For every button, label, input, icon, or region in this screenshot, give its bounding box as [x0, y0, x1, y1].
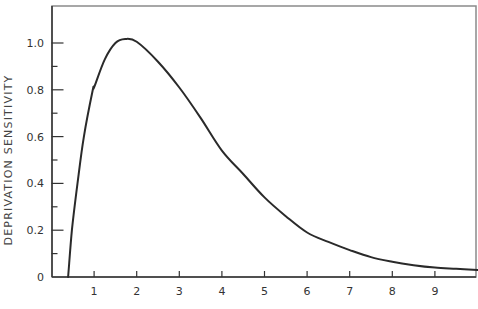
x-tick-label: 6 — [304, 285, 311, 298]
chart: 123456789 00.20.40.60.81.0 DEPRIVATION S… — [0, 0, 478, 309]
y-tick-label: 0.4 — [27, 177, 45, 190]
y-tick-label: 0 — [37, 271, 44, 284]
x-tick-label: 1 — [91, 285, 98, 298]
plot-frame — [52, 6, 476, 277]
x-tick-label: 7 — [346, 285, 353, 298]
y-tick-label: 1.0 — [27, 37, 45, 50]
x-tick-label: 8 — [389, 285, 396, 298]
y-tick-label: 0.6 — [27, 131, 45, 144]
x-tick-label: 5 — [261, 285, 268, 298]
y-tick-label: 0.8 — [27, 84, 45, 97]
y-axis-label: DEPRIVATION SENSITIVITY — [2, 75, 15, 246]
x-tick-label: 9 — [431, 285, 438, 298]
x-tick-label: 2 — [133, 285, 140, 298]
x-tick-label: 4 — [218, 285, 225, 298]
x-axis-ticks: 123456789 — [91, 271, 439, 298]
data-curve — [68, 39, 477, 277]
y-axis-ticks: 00.20.40.60.81.0 — [27, 37, 64, 284]
x-tick-label: 3 — [176, 285, 183, 298]
y-tick-label: 0.2 — [27, 224, 45, 237]
